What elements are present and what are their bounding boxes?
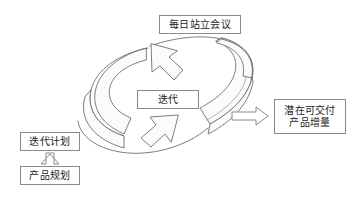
node-product-plan[interactable]: 产品规划 [20,166,80,185]
node-daily-standup[interactable]: 每日站立会议 [159,15,241,34]
node-iteration-plan[interactable]: 迭代计划 [20,132,80,151]
cycle-arrowhead-lower-icon [141,115,178,147]
node-iteration[interactable]: 迭代 [137,90,199,109]
block-arrow-up-icon [41,153,59,164]
cycle-arrowhead-upper-icon [151,44,183,80]
diagram-canvas: 每日站立会议 迭代 潜在可交付 产品增量 迭代计划 产品规划 [0,0,355,197]
node-potentially-shippable-increment[interactable]: 潜在可交付 产品增量 [274,99,346,134]
